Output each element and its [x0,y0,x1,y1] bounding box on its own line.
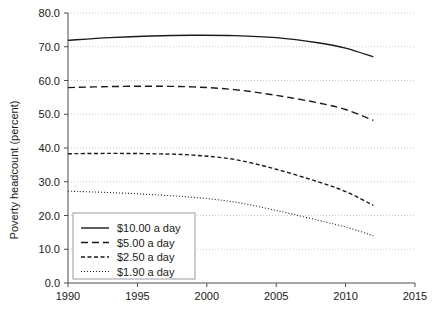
legend-label-3: $2.50 a day [117,251,175,263]
x-tick-label: 2005 [264,290,288,302]
chart-background [0,0,440,323]
chart-figure: 0.010.020.030.040.050.060.070.080.0 1990… [0,0,440,323]
poverty-headcount-line-chart: 0.010.020.030.040.050.060.070.080.0 1990… [0,0,440,323]
y-tick-label: 50.0 [39,108,60,120]
x-tick-label: 2000 [195,290,219,302]
legend-label-2: $5.00 a day [117,237,175,249]
y-tick-label: 0.0 [45,277,60,289]
y-axis-title: Poverty headcount (percent) [8,101,20,240]
y-tick-label: 10.0 [39,243,60,255]
y-tick-label: 80.0 [39,7,60,19]
x-tick-label: 1995 [125,290,149,302]
x-tick-label: 2015 [403,290,427,302]
x-tick-label: 2010 [333,290,357,302]
legend-label-4: $1.90 a day [117,266,175,278]
y-tick-label: 60.0 [39,75,60,87]
y-tick-label: 70.0 [39,41,60,53]
x-tick-label: 1990 [56,290,80,302]
y-tick-label: 40.0 [39,142,60,154]
legend-label-1: $10.00 a day [117,222,181,234]
chart-legend[interactable]: $10.00 a day$5.00 a day$2.50 a day$1.90 … [73,213,195,279]
y-tick-label: 30.0 [39,176,60,188]
y-tick-label: 20.0 [39,210,60,222]
